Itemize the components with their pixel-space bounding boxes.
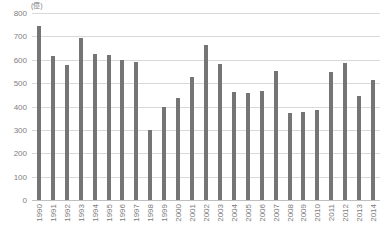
- x-tick-label-2012: 2012: [341, 204, 350, 222]
- y-tick-label: 700: [14, 32, 27, 41]
- bar-slot: [366, 13, 380, 200]
- x-label-slot: 1991: [46, 202, 60, 248]
- bar-1991[interactable]: [51, 56, 55, 200]
- x-label-slot: 1992: [60, 202, 74, 248]
- bar-slot: [310, 13, 324, 200]
- bar-slot: [32, 13, 46, 200]
- y-tick-label: 200: [14, 149, 27, 158]
- x-tick-label-2011: 2011: [327, 204, 336, 221]
- bar-1998[interactable]: [148, 130, 152, 200]
- bar-slot: [157, 13, 171, 200]
- x-tick-label-2002: 2002: [202, 204, 211, 222]
- bar-2007[interactable]: [274, 71, 278, 200]
- y-tick-label: 400: [14, 102, 27, 111]
- x-label-slot: 2008: [283, 202, 297, 248]
- x-label-slot: 2013: [352, 202, 366, 248]
- x-label-slot: 2011: [324, 202, 338, 248]
- x-label-slot: 2009: [297, 202, 311, 248]
- bar-series: [32, 13, 380, 200]
- bar-slot: [116, 13, 130, 200]
- x-tick-label-2009: 2009: [299, 204, 308, 222]
- bar-1992[interactable]: [65, 65, 69, 200]
- x-axis-labels: 1990199119921993199419951996199719981999…: [32, 202, 380, 248]
- bar-2001[interactable]: [190, 77, 194, 200]
- bar-2003[interactable]: [218, 64, 222, 200]
- plot-area: 8007006005004003002001000: [32, 13, 380, 200]
- bar-1994[interactable]: [93, 54, 97, 200]
- bar-1997[interactable]: [134, 62, 138, 200]
- bar-slot: [269, 13, 283, 200]
- x-tick-label-1995: 1995: [104, 204, 113, 222]
- x-tick-label-2013: 2013: [355, 204, 364, 222]
- bar-slot: [324, 13, 338, 200]
- x-tick-label-1996: 1996: [118, 204, 127, 222]
- bar-slot: [171, 13, 185, 200]
- bar-slot: [46, 13, 60, 200]
- bar-slot: [143, 13, 157, 200]
- bar-slot: [241, 13, 255, 200]
- x-tick-label-2000: 2000: [174, 204, 183, 222]
- bar-1999[interactable]: [162, 107, 166, 200]
- bar-2013[interactable]: [357, 96, 361, 200]
- bar-1990[interactable]: [37, 26, 41, 200]
- x-label-slot: 2005: [241, 202, 255, 248]
- bar-2014[interactable]: [371, 80, 375, 200]
- x-tick-label-1993: 1993: [76, 204, 85, 222]
- bar-slot: [352, 13, 366, 200]
- x-tick-label-1992: 1992: [62, 204, 71, 222]
- x-label-slot: 1996: [116, 202, 130, 248]
- x-tick-label-1991: 1991: [48, 204, 57, 222]
- bar-slot: [102, 13, 116, 200]
- x-label-slot: 1998: [143, 202, 157, 248]
- x-label-slot: 2002: [199, 202, 213, 248]
- x-label-slot: 1994: [88, 202, 102, 248]
- bar-2005[interactable]: [246, 93, 250, 200]
- x-tick-label-2010: 2010: [313, 204, 322, 222]
- bar-1996[interactable]: [120, 60, 124, 200]
- y-axis-unit-label: (億): [31, 1, 43, 10]
- bar-slot: [199, 13, 213, 200]
- bar-2002[interactable]: [204, 45, 208, 200]
- bar-2010[interactable]: [315, 110, 319, 200]
- bar-1995[interactable]: [107, 55, 111, 200]
- y-tick-label: 600: [14, 55, 27, 64]
- x-tick-label-2003: 2003: [215, 204, 224, 222]
- bar-slot: [297, 13, 311, 200]
- x-tick-label-2005: 2005: [243, 204, 252, 222]
- y-tick-label: 100: [14, 172, 27, 181]
- bar-slot: [255, 13, 269, 200]
- x-tick-label-2004: 2004: [229, 204, 238, 222]
- bar-slot: [213, 13, 227, 200]
- bar-2009[interactable]: [301, 112, 305, 200]
- x-tick-label-1998: 1998: [146, 204, 155, 222]
- bar-chart: (億) 8007006005004003002001000 1990199119…: [0, 0, 386, 250]
- y-tick-label: 500: [14, 79, 27, 88]
- x-tick-label-1990: 1990: [34, 204, 43, 222]
- bar-slot: [74, 13, 88, 200]
- bar-2004[interactable]: [232, 92, 236, 200]
- bar-slot: [129, 13, 143, 200]
- bar-2000[interactable]: [176, 98, 180, 200]
- bar-1993[interactable]: [79, 38, 83, 200]
- bar-slot: [88, 13, 102, 200]
- bar-slot: [227, 13, 241, 200]
- x-tick-label-2007: 2007: [271, 204, 280, 222]
- x-tick-label-1999: 1999: [160, 204, 169, 222]
- x-label-slot: 2007: [269, 202, 283, 248]
- x-label-slot: 2010: [310, 202, 324, 248]
- x-label-slot: 2000: [171, 202, 185, 248]
- x-label-slot: 1993: [74, 202, 88, 248]
- x-tick-label-1997: 1997: [132, 204, 141, 222]
- bar-2011[interactable]: [329, 72, 333, 200]
- x-label-slot: 2006: [255, 202, 269, 248]
- x-tick-label-1994: 1994: [90, 204, 99, 222]
- bar-slot: [185, 13, 199, 200]
- x-label-slot: 1999: [157, 202, 171, 248]
- bar-2006[interactable]: [260, 91, 264, 200]
- bar-2012[interactable]: [343, 63, 347, 200]
- x-label-slot: 2003: [213, 202, 227, 248]
- bar-slot: [60, 13, 74, 200]
- y-tick-label: 800: [14, 9, 27, 18]
- y-tick-label: 0: [23, 196, 27, 205]
- bar-2008[interactable]: [288, 113, 292, 200]
